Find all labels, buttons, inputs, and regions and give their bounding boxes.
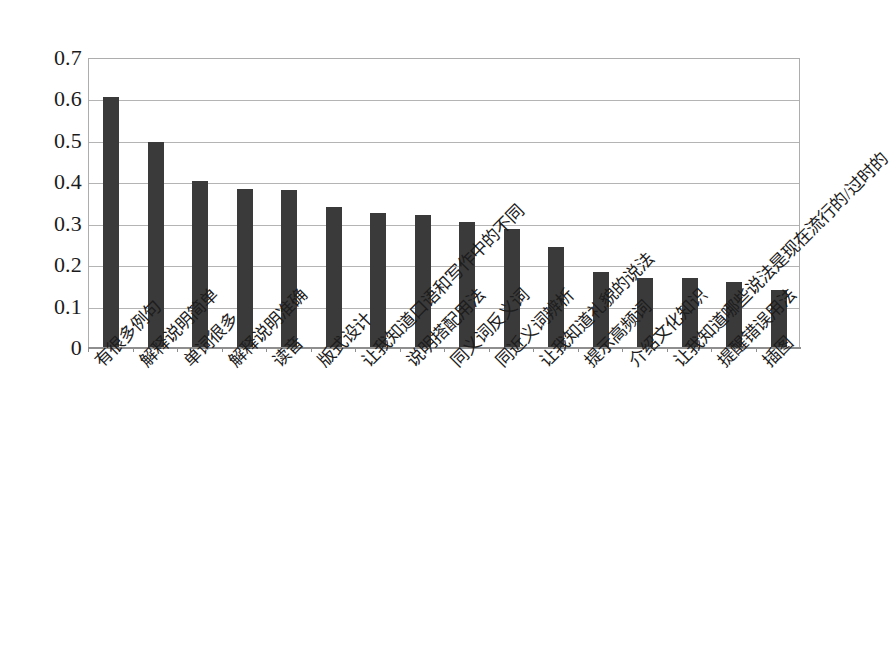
x-tick-label: 插图 <box>760 334 796 370</box>
x-tick-mark <box>444 347 445 352</box>
x-tick-mark <box>622 347 623 352</box>
x-tick-mark <box>355 347 356 352</box>
x-tick-mark <box>533 347 534 352</box>
x-tick-mark <box>711 347 712 352</box>
x-tick-mark <box>400 347 401 352</box>
x-tick-mark <box>311 347 312 352</box>
x-tick-mark <box>88 347 89 352</box>
x-tick-mark <box>222 347 223 352</box>
x-tick-mark <box>756 347 757 352</box>
x-tick-mark <box>133 347 134 352</box>
x-tick-label: 解释说明准确 <box>226 286 310 370</box>
x-tick-mark <box>266 347 267 352</box>
x-tick-mark <box>489 347 490 352</box>
x-tick-label: 读音 <box>270 334 306 370</box>
x-tick-mark <box>177 347 178 352</box>
x-tick-mark <box>578 347 579 352</box>
x-tick-mark <box>667 347 668 352</box>
